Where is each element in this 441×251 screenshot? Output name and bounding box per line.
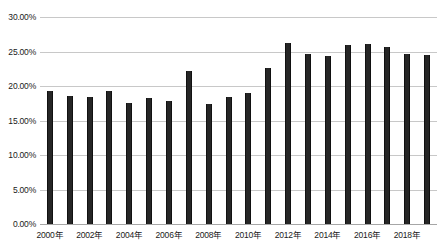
x-axis-tick-label: 2002年 xyxy=(76,228,103,240)
gridline xyxy=(40,17,437,18)
bar xyxy=(106,91,112,224)
bar xyxy=(206,104,212,224)
x-axis: 2000年2002年2004年2006年2008年2010年2012年2014年… xyxy=(40,228,437,248)
plot-area xyxy=(40,17,437,224)
gridline xyxy=(40,52,437,53)
x-axis-tick-label: 2006年 xyxy=(156,228,183,240)
bar xyxy=(285,43,291,224)
y-axis-tick-label: 20.00% xyxy=(8,81,36,91)
bar xyxy=(325,56,331,224)
x-axis-tick-label: 2010年 xyxy=(235,228,262,240)
y-axis-tick-label: 15.00% xyxy=(8,116,36,126)
x-axis-tick-label: 2014年 xyxy=(314,228,341,240)
gridline xyxy=(40,86,437,87)
bar xyxy=(226,97,232,224)
bar-chart: 0.00%5.00%10.00%15.00%20.00%25.00%30.00%… xyxy=(0,0,441,251)
bar xyxy=(345,45,351,224)
gridline xyxy=(40,190,437,191)
bar xyxy=(365,44,371,224)
bar xyxy=(166,101,172,225)
y-axis-tick-label: 25.00% xyxy=(8,47,36,57)
bar xyxy=(146,98,152,224)
bar xyxy=(384,47,390,224)
y-axis-tick-label: 0.00% xyxy=(13,219,36,229)
x-axis-tick-label: 2012年 xyxy=(275,228,302,240)
x-axis-line xyxy=(40,224,437,225)
gridline xyxy=(40,155,437,156)
y-axis: 0.00%5.00%10.00%15.00%20.00%25.00%30.00% xyxy=(0,0,40,251)
y-axis-tick-label: 30.00% xyxy=(8,12,36,22)
bar xyxy=(404,54,410,224)
bar xyxy=(67,96,73,224)
bar xyxy=(265,68,271,224)
bar xyxy=(47,91,53,224)
bar xyxy=(424,55,430,224)
x-axis-tick-label: 2004年 xyxy=(116,228,143,240)
bar xyxy=(87,97,93,224)
bar xyxy=(126,103,132,224)
x-axis-tick-label: 2018年 xyxy=(394,228,421,240)
bar xyxy=(305,54,311,224)
y-axis-tick-label: 10.00% xyxy=(8,150,36,160)
bar xyxy=(245,93,251,224)
x-axis-tick-label: 2008年 xyxy=(195,228,222,240)
x-axis-tick-label: 2016年 xyxy=(354,228,381,240)
y-axis-tick-label: 5.00% xyxy=(13,185,36,195)
gridline xyxy=(40,121,437,122)
bar xyxy=(186,71,192,224)
x-axis-tick-label: 2000年 xyxy=(36,228,63,240)
